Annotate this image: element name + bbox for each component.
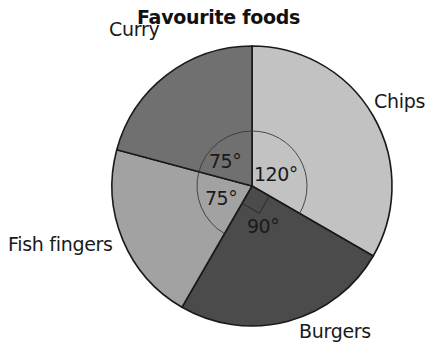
- angle-label-burgers: 90°: [247, 215, 279, 237]
- label-fish-fingers: Fish fingers: [8, 233, 113, 255]
- label-chips: Chips: [374, 90, 425, 112]
- label-burgers: Burgers: [299, 320, 371, 342]
- pie-chart: [0, 0, 437, 359]
- angle-label-chips: 120°: [254, 163, 298, 185]
- label-curry: Curry: [109, 18, 159, 40]
- pie-slices: [112, 46, 392, 326]
- angle-label-fish-fingers: 75°: [205, 187, 237, 209]
- angle-label-curry: 75°: [209, 150, 241, 172]
